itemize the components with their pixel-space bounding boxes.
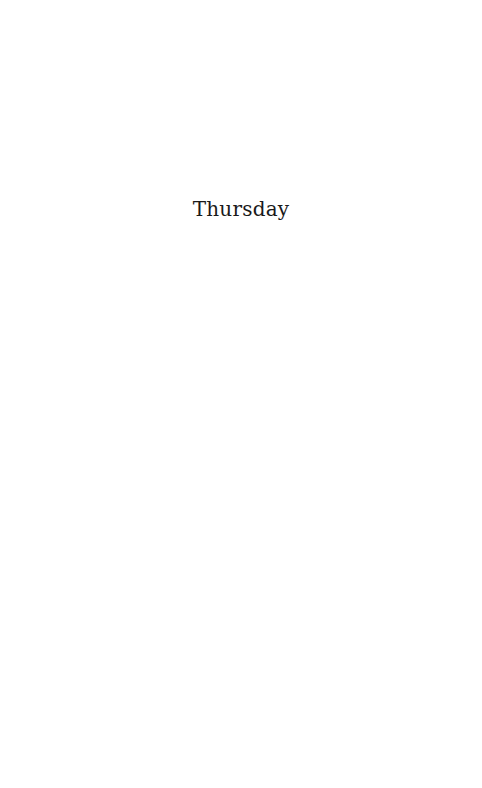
document-page: Thursday — [0, 0, 482, 788]
page-heading: Thursday — [0, 196, 482, 222]
